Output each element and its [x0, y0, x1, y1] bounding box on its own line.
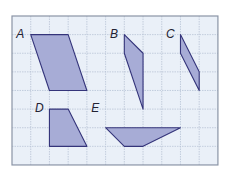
shape-label-e: E	[91, 101, 100, 115]
shapes-grid-diagram: ABCDE	[0, 0, 229, 172]
shape-label-a: A	[15, 27, 24, 41]
shape-label-d: D	[35, 101, 44, 115]
shape-label-b: B	[110, 27, 118, 41]
shape-label-c: C	[166, 27, 175, 41]
